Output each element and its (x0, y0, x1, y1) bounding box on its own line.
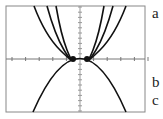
label-b: b (152, 75, 160, 90)
calculator-graph (0, 0, 163, 119)
label-a: a (152, 6, 159, 21)
intersection-point-left (70, 56, 76, 62)
intersection-point-right (84, 56, 90, 62)
label-c: c (152, 93, 159, 108)
